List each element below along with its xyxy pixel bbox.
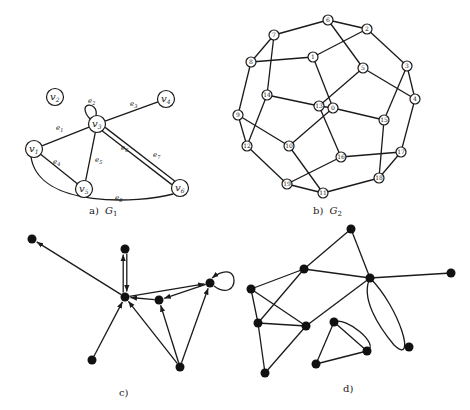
vertex-label-n6: 6 — [326, 16, 330, 23]
panel-c-directed-graph — [28, 235, 235, 372]
vertex-c6 — [88, 356, 97, 365]
edge-n6-n7 — [274, 20, 328, 35]
edge-n4-n17 — [401, 99, 415, 152]
vertex-label-n14: 14 — [263, 91, 271, 98]
edge-e7 — [102, 131, 172, 185]
vertex-label-n8: 8 — [249, 58, 253, 65]
edge-n13-n16 — [319, 106, 341, 157]
caption-b: b) G2 — [313, 205, 342, 218]
vertex-c3 — [121, 293, 130, 302]
edge-n15-n18 — [379, 120, 384, 178]
vertex-d6 — [254, 319, 263, 328]
arc-c5-c5 — [212, 272, 234, 291]
vertex-d1 — [347, 225, 356, 234]
vertex-label-n1: 1 — [311, 53, 315, 60]
edge-label-e1: e1 — [56, 124, 63, 133]
panel-d-undirected-graph — [247, 225, 456, 378]
edge-d6-d12 — [258, 323, 265, 373]
edge-d6-d7 — [258, 323, 306, 326]
edge-n0-n10 — [289, 108, 333, 146]
vertex-c5 — [206, 279, 215, 288]
edge-d8-d11 — [316, 322, 334, 364]
edge-n8-n1 — [251, 57, 313, 62]
edge-d1-d3 — [351, 229, 370, 278]
vertex-label-n13: 13 — [315, 102, 323, 109]
edge-n1-n0 — [313, 57, 333, 108]
edge-label-e3: e3 — [130, 100, 137, 109]
vertex-d8 — [330, 318, 339, 327]
caption-c: c) — [119, 387, 129, 398]
vertex-label-n2: 2 — [365, 25, 369, 32]
edge-n5-n4 — [363, 68, 415, 99]
edge-n2-n1 — [313, 29, 367, 57]
arc-c4-c3 — [130, 297, 154, 299]
edge-n16-n17 — [341, 152, 401, 157]
vertex-d3 — [366, 274, 375, 283]
edge-d11-d9 — [316, 351, 367, 364]
arc-c7-c5 — [182, 288, 209, 363]
edge-e4 — [41, 154, 78, 183]
edge-n3-n15 — [384, 66, 407, 120]
edge-d3-d4 — [370, 273, 451, 278]
vertex-d4 — [447, 269, 456, 278]
edge-d3-d7 — [306, 278, 370, 326]
vertex-label-n15: 15 — [380, 116, 388, 123]
vertex-label-n12: 12 — [243, 142, 251, 149]
edge-label-e7: e7 — [153, 151, 161, 160]
vertex-label-n7: 7 — [272, 31, 276, 38]
vertex-label-n5: 5 — [361, 64, 365, 71]
vertex-c2 — [121, 245, 130, 254]
edge-d2-d3 — [304, 269, 370, 278]
vertex-label-n9: 9 — [236, 111, 240, 118]
vertex-label-n17: 17 — [397, 148, 405, 155]
edge-n5-n13 — [319, 68, 363, 106]
caption-a: a) G1 — [89, 205, 118, 218]
edge-label-e5: e5 — [95, 156, 102, 165]
vertex-d2 — [300, 265, 309, 274]
edge-e1 — [42, 127, 89, 146]
arc-c6-c3 — [94, 302, 122, 356]
vertex-d12 — [261, 369, 270, 378]
edge-n11-n18 — [323, 178, 379, 193]
edge-e5 — [86, 132, 96, 180]
edge-d8-d9 — [334, 322, 367, 351]
edge-d7-d12 — [265, 326, 306, 373]
vertex-d11 — [312, 360, 321, 369]
edge-d1-d2 — [304, 229, 351, 269]
vertex-label-n16: 16 — [337, 153, 345, 160]
panel-a-graph-g1: e1e2e3e4e5e6e7e8v1v2v3v4v5v6 — [26, 89, 189, 203]
edge-label-e8: e8 — [115, 194, 122, 203]
vertex-label-n10: 10 — [285, 142, 293, 149]
vertex-label-n3: 3 — [405, 62, 409, 69]
vertex-label-n4: 4 — [413, 95, 417, 102]
vertex-d5 — [247, 285, 256, 294]
edge-n8-n9 — [238, 62, 251, 115]
graph-figure: e1e2e3e4e5e6e7e8v1v2v3v4v5v6 62718534141… — [0, 0, 470, 410]
edge-d5-d6 — [251, 289, 258, 323]
edge-d8-d9 — [334, 321, 370, 351]
vertex-c7 — [176, 363, 185, 372]
caption-d: d) — [343, 383, 353, 394]
vertex-label-n11: 11 — [319, 189, 327, 196]
arc-c7-c3 — [128, 301, 177, 363]
vertex-label-n18: 18 — [375, 174, 383, 181]
vertex-label-n19: 19 — [283, 180, 291, 187]
arc-c3-c5 — [129, 284, 204, 296]
edge-n12-n19 — [247, 146, 287, 184]
vertex-label-n0: 0 — [331, 104, 335, 111]
edge-label-e2: e2 — [88, 97, 95, 106]
vertex-c4 — [155, 296, 164, 305]
edge-d3-d10 — [367, 278, 404, 350]
vertex-d9 — [363, 347, 372, 356]
edge-n14-n12 — [247, 95, 267, 146]
edge-n7-n14 — [267, 35, 274, 95]
panel-b-graph-g2: 627185341413091510161712181911 — [233, 15, 420, 198]
edge-n14-n13 — [267, 95, 319, 106]
vertex-d7 — [302, 322, 311, 331]
edge-e6 — [105, 127, 175, 181]
arc-c3-c1 — [37, 242, 122, 295]
edge-n0-n15 — [333, 108, 384, 120]
vertex-c1 — [28, 235, 37, 244]
vertex-d10 — [405, 343, 414, 352]
edge-label-e4: e4 — [53, 158, 60, 167]
